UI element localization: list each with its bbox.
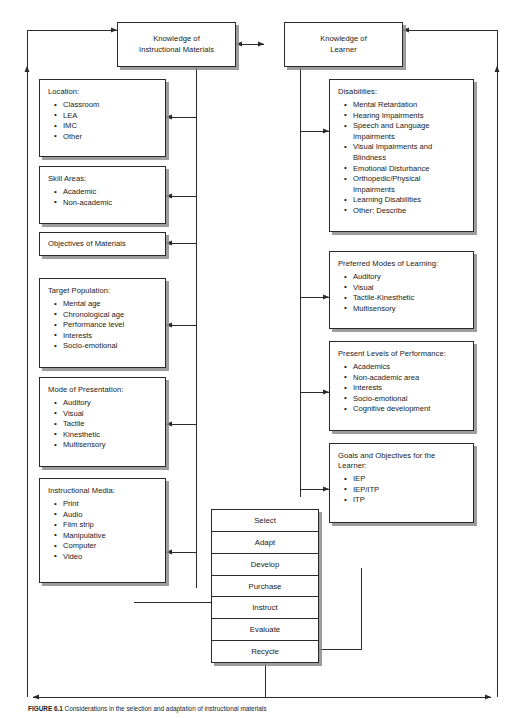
header-title: Knowledge of Instructional Materials bbox=[139, 34, 214, 55]
panel-items: IEP IEP/ITP ITP bbox=[338, 474, 466, 506]
list-item: Tactile bbox=[54, 419, 158, 430]
list-item: Orthopedic/Physical Impairments bbox=[344, 174, 466, 195]
list-item: Non-academic area bbox=[344, 373, 466, 384]
panel-items: Auditory Visual Tactile-Kinesthetic Mult… bbox=[338, 272, 466, 314]
process-step-instruct[interactable]: Instruct bbox=[212, 597, 318, 619]
list-item: Multisensory bbox=[54, 440, 158, 451]
panel-title: Location: bbox=[48, 87, 158, 97]
panel-title: Present Levels of Performance: bbox=[338, 349, 466, 359]
list-item: Computer bbox=[54, 541, 158, 552]
process-step-adapt[interactable]: Adapt bbox=[212, 532, 318, 554]
list-item: Interests bbox=[344, 383, 466, 394]
list-item: ITP bbox=[344, 495, 466, 506]
panel-items: Classroom LEA IMC Other bbox=[48, 100, 158, 142]
list-item: Film strip bbox=[54, 520, 158, 531]
figure-caption-label: FIGURE 6.1 bbox=[28, 705, 63, 712]
box-present-levels-of-performance[interactable]: Present Levels of Performance: Academics… bbox=[329, 341, 474, 431]
box-disabilities[interactable]: Disabilities: Mental Retardation Hearing… bbox=[329, 79, 474, 232]
list-item: Mental Retardation bbox=[344, 100, 466, 111]
list-item: Visual bbox=[54, 409, 158, 420]
box-preferred-modes-of-learning[interactable]: Preferred Modes of Learning: Auditory Vi… bbox=[329, 251, 474, 329]
panel-title: Target Population: bbox=[48, 286, 158, 296]
box-knowledge-of-learner[interactable]: Knowledge of Learner bbox=[284, 22, 403, 67]
process-step-stack[interactable]: Select Adapt Develop Purchase Instruct E… bbox=[211, 509, 319, 663]
list-item: IEP bbox=[344, 474, 466, 485]
list-item: Mental age bbox=[54, 299, 158, 310]
list-item: Performance level bbox=[54, 320, 158, 331]
box-instructional-media[interactable]: Instructional Media: Print Audio Film st… bbox=[39, 478, 166, 583]
list-item: Print bbox=[54, 499, 158, 510]
box-skill-areas[interactable]: Skill Areas: Academic Non-academic bbox=[39, 166, 166, 224]
list-item: Non-academic bbox=[54, 198, 158, 209]
list-item: Learning Disabilities bbox=[344, 195, 466, 206]
figure-diagram: Knowledge of Instructional Materials Kno… bbox=[0, 0, 520, 718]
process-step-select[interactable]: Select bbox=[212, 510, 318, 532]
panel-title: Skill Areas: bbox=[48, 174, 158, 184]
panel-items: Print Audio Film strip Manipulative Comp… bbox=[48, 499, 158, 563]
process-step-evaluate[interactable]: Evaluate bbox=[212, 619, 318, 641]
list-item: Other: Describe bbox=[344, 206, 466, 217]
figure-caption: FIGURE 6.1 Considerations in the selecti… bbox=[28, 704, 508, 716]
list-item: Multisensory bbox=[344, 304, 466, 315]
list-item: Tactile-Kinesthetic bbox=[344, 293, 466, 304]
panel-title: Preferred Modes of Learning: bbox=[338, 259, 466, 269]
panel-title: Objectives of Materials bbox=[40, 239, 165, 250]
list-item: Hearing Impairments bbox=[344, 111, 466, 122]
panel-items: Auditory Visual Tactile Kinesthetic Mult… bbox=[48, 398, 158, 451]
panel-items: Mental age Chronological age Performance… bbox=[48, 299, 158, 352]
panel-title: Instructional Media: bbox=[48, 486, 158, 496]
list-item: Kinesthetic bbox=[54, 430, 158, 441]
list-item: Speech and Language Impairments bbox=[344, 121, 466, 142]
box-knowledge-of-instructional-materials[interactable]: Knowledge of Instructional Materials bbox=[117, 22, 236, 67]
box-target-population[interactable]: Target Population: Mental age Chronologi… bbox=[39, 278, 166, 368]
panel-title: Mode of Presentation: bbox=[48, 385, 158, 395]
figure-caption-text: Considerations in the selection and adap… bbox=[65, 705, 267, 712]
list-item: IMC bbox=[54, 121, 158, 132]
box-goals-and-objectives[interactable]: Goals and Objectives for the Learner: IE… bbox=[329, 443, 474, 523]
list-item: Classroom bbox=[54, 100, 158, 111]
header-title: Knowledge of Learner bbox=[320, 34, 367, 55]
list-item: Video bbox=[54, 552, 158, 563]
list-item: Other bbox=[54, 132, 158, 143]
list-item: Chronological age bbox=[54, 310, 158, 321]
box-location[interactable]: Location: Classroom LEA IMC Other bbox=[39, 79, 166, 157]
panel-items: Mental Retardation Hearing Impairments S… bbox=[338, 100, 466, 217]
list-item: Socio-emotional bbox=[54, 341, 158, 352]
list-item: Auditory bbox=[54, 398, 158, 409]
panel-title: Goals and Objectives for the Learner: bbox=[338, 451, 466, 471]
panel-items: Academics Non-academic area Interests So… bbox=[338, 362, 466, 415]
list-item: Audio bbox=[54, 510, 158, 521]
list-item: LEA bbox=[54, 111, 158, 122]
list-item: IEP/ITP bbox=[344, 485, 466, 496]
list-item: Auditory bbox=[344, 272, 466, 283]
list-item: Socio-emotional bbox=[344, 394, 466, 405]
process-step-purchase[interactable]: Purchase bbox=[212, 576, 318, 598]
list-item: Cognitive development bbox=[344, 404, 466, 415]
list-item: Visual bbox=[344, 283, 466, 294]
list-item: Interests bbox=[54, 331, 158, 342]
box-objectives-of-materials[interactable]: Objectives of Materials bbox=[39, 232, 166, 256]
list-item: Academics bbox=[344, 362, 466, 373]
process-step-develop[interactable]: Develop bbox=[212, 554, 318, 576]
box-mode-of-presentation[interactable]: Mode of Presentation: Auditory Visual Ta… bbox=[39, 377, 166, 467]
list-item: Academic bbox=[54, 187, 158, 198]
list-item: Manipulative bbox=[54, 531, 158, 542]
panel-items: Academic Non-academic bbox=[48, 187, 158, 208]
list-item: Visual Impairments and Blindness bbox=[344, 142, 466, 163]
process-step-recycle[interactable]: Recycle bbox=[212, 641, 318, 662]
panel-title: Disabilities: bbox=[338, 87, 466, 97]
list-item: Emotional Disturbance bbox=[344, 164, 466, 175]
